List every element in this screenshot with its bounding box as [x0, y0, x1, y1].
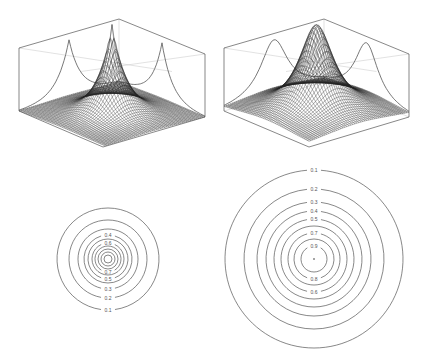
- contour-label: 0.6: [105, 240, 112, 246]
- box-back-guide: [81, 54, 205, 72]
- box-top-edge-left: [19, 19, 119, 48]
- box-top-edge-right: [324, 19, 409, 54]
- contour-label: 0.5: [105, 276, 112, 282]
- contour-label: 0.6: [311, 289, 318, 295]
- box-bottom-edge-left: [224, 111, 309, 147]
- contour-label: 0.8: [311, 276, 318, 282]
- contour-label: 0.7: [311, 230, 318, 236]
- contour-center-dot: [313, 258, 315, 260]
- contour-line: [101, 252, 115, 266]
- contour-label: 0.4: [105, 232, 112, 238]
- box-bottom-edge-right: [103, 117, 205, 147]
- box-back-guide: [19, 48, 172, 72]
- contour-label: 0.2: [105, 295, 112, 301]
- contour-plot-right: 0.10.20.30.40.50.60.70.80.9: [225, 167, 403, 348]
- contour-label: 0.9: [311, 243, 318, 249]
- contour-label: 0.1: [311, 167, 318, 173]
- contour-label: 0.2: [311, 186, 318, 192]
- contour-plot-left: 0.10.20.30.40.50.60.7: [57, 208, 159, 313]
- box-top-edge-right: [119, 19, 205, 54]
- contour-label: 0.5: [311, 216, 318, 222]
- contour-label: 0.3: [105, 286, 112, 292]
- contour-label: 0.7: [105, 269, 112, 275]
- contour-line: [301, 248, 327, 272]
- contour-line: [104, 255, 112, 263]
- contour-label: 0.3: [311, 199, 318, 205]
- contour-line: [95, 246, 121, 270]
- contour-label: 0.1: [105, 307, 112, 313]
- contour-label: 0.4: [311, 208, 318, 214]
- surface-plot-right: [224, 19, 409, 147]
- figure-canvas: 0.10.20.30.40.50.60.7 0.10.20.30.40.50.6…: [0, 0, 427, 364]
- surface-plot-left: [19, 19, 205, 147]
